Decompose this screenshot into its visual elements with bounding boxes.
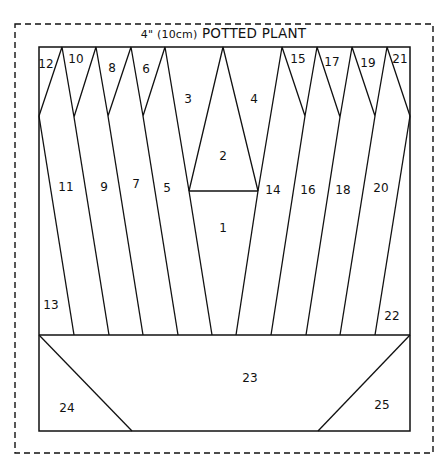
piece-number-17: 17 [324, 55, 339, 69]
piece-number-25: 25 [374, 398, 389, 412]
piece-number-19: 19 [360, 56, 375, 70]
piece-number-23: 23 [242, 371, 257, 385]
pot-diagonals [39, 335, 410, 431]
piece-number-12: 12 [38, 57, 53, 71]
piece-number-15: 15 [290, 52, 305, 66]
piece-number-13: 13 [43, 298, 58, 312]
piece-number-22: 22 [384, 309, 399, 323]
piece-number-24: 24 [59, 401, 74, 415]
title-name: POTTED PLANT [202, 25, 306, 41]
piece-number-6: 6 [142, 62, 150, 76]
leaf-lines-center [189, 47, 258, 191]
piece-number-5: 5 [163, 181, 171, 195]
title-size: 4" (10cm) [141, 28, 198, 41]
pattern-title: 4" (10cm) POTTED PLANT [0, 25, 447, 41]
piece-number-11: 11 [58, 180, 73, 194]
piece-number-14: 14 [265, 183, 280, 197]
block-frame [39, 47, 410, 431]
piece-number-4: 4 [250, 92, 258, 106]
piece-number-21: 21 [392, 52, 407, 66]
piece-number-3: 3 [184, 92, 192, 106]
piece-number-20: 20 [373, 181, 388, 195]
seam-allowance-border [15, 24, 433, 453]
piece-number-10: 10 [68, 52, 83, 66]
piece-number-7: 7 [132, 177, 140, 191]
piece-number-8: 8 [108, 61, 116, 75]
piece-number-1: 1 [219, 221, 227, 235]
piece-number-16: 16 [300, 183, 315, 197]
piece-number-9: 9 [100, 180, 108, 194]
piece-number-2: 2 [219, 149, 227, 163]
piece-number-18: 18 [335, 183, 350, 197]
